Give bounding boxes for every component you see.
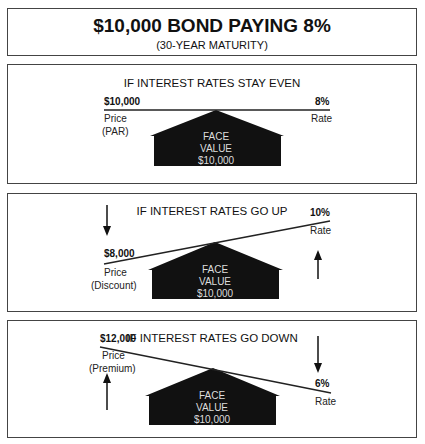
house-line-1: FACE	[180, 390, 244, 402]
price-label: Price	[102, 350, 125, 361]
arrow-up-icon	[314, 250, 322, 279]
arrow-down-icon	[103, 205, 111, 236]
house-label: FACE VALUE $10,000	[184, 131, 248, 167]
price-value: $8,000	[104, 248, 135, 259]
rate-label: Rate	[315, 396, 336, 407]
house-line-1: FACE	[184, 131, 248, 143]
house-line-3: $10,000	[184, 155, 248, 167]
rate-value: 6%	[315, 378, 329, 389]
price-label: Price	[104, 113, 127, 124]
price-qualifier: (Premium)	[89, 363, 136, 374]
price-value: $12,000	[100, 333, 136, 344]
rate-value: 10%	[310, 207, 330, 218]
arrow-down-icon	[314, 336, 322, 373]
house-label: FACE VALUE $10,000	[183, 264, 247, 300]
house-line-3: $10,000	[183, 288, 247, 300]
rate-label: Rate	[310, 225, 331, 236]
house-line-3: $10,000	[180, 414, 244, 426]
price-label: Price	[104, 267, 127, 278]
price-qualifier: (PAR)	[102, 126, 128, 137]
house-label: FACE VALUE $10,000	[180, 390, 244, 426]
house-line-2: VALUE	[180, 402, 244, 414]
house-line-2: VALUE	[183, 276, 247, 288]
price-value: $10,000	[104, 96, 140, 107]
house-line-2: VALUE	[184, 143, 248, 155]
diagram-graphics	[0, 0, 425, 444]
arrow-up-icon	[103, 373, 111, 410]
rate-value: 8%	[315, 96, 329, 107]
rate-label: Rate	[311, 113, 332, 124]
price-qualifier: (Discount)	[91, 280, 137, 291]
house-line-1: FACE	[183, 264, 247, 276]
